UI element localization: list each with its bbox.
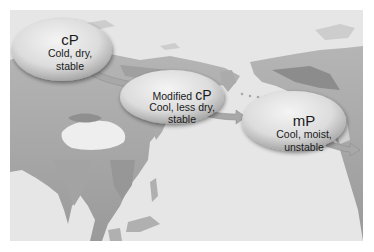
air-mass-cp-desc-line2: stable — [24, 61, 116, 73]
air-mass-cp: cP Cold, dry, stable — [24, 32, 116, 73]
air-mass-modified-cp-desc-line2: stable — [132, 114, 232, 126]
air-mass-mp-desc-line2: unstable — [258, 142, 350, 154]
air-mass-mp-label: mP — [258, 113, 350, 128]
air-mass-modified-cp-label: Modified cP — [132, 88, 232, 102]
air-mass-modified-cp: Modified cP Cool, less dry, stable — [132, 88, 232, 126]
air-mass-modified-cp-desc-line1: Cool, less dry, — [132, 102, 232, 114]
air-mass-cp-desc-line1: Cold, dry, — [24, 48, 116, 60]
air-mass-mp: mP Cool, moist, unstable — [258, 113, 350, 154]
map-frame: cP Cold, dry, stable Modified cP Cool, l… — [10, 10, 363, 241]
air-mass-cp-label: cP — [24, 32, 116, 47]
air-mass-mp-desc-line1: Cool, moist, — [258, 129, 350, 141]
